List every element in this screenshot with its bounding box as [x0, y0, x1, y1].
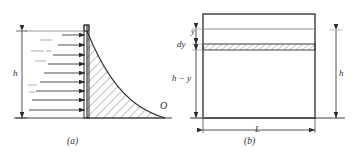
panel-a-caption: (a) [67, 136, 78, 146]
panel-a-pressure-arrows [29, 35, 85, 110]
panel-a-depth-label: h [13, 68, 18, 78]
panel-a [14, 25, 172, 118]
panel-a-water-marks [28, 40, 52, 92]
panel-a-origin-label: O [160, 100, 167, 111]
panel-b-dam-face-rect [203, 14, 315, 118]
panel-b-width-label: L [255, 124, 260, 134]
panel-b-caption: (b) [244, 136, 255, 146]
panel-a-pressure-region [87, 31, 165, 118]
figure-container: h O (a) y dy h − y L h (b) [0, 0, 357, 154]
panel-b-depth-label: h [339, 68, 344, 78]
panel-b-dy-label: dy [177, 39, 186, 49]
panel-b-differential-strip [203, 44, 315, 50]
panel-b-h-minus-y-label: h − y [172, 73, 191, 83]
panel-b [190, 14, 345, 133]
panel-b-y-label: y [191, 27, 195, 36]
